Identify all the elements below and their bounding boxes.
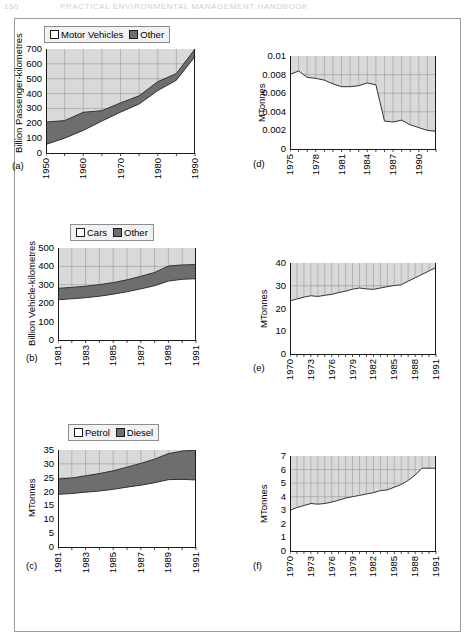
y-tick-label: 4 <box>258 492 286 502</box>
y-tick-label: 500 <box>14 74 42 84</box>
plot-area-panel-b <box>58 248 200 354</box>
y-tick-label: 300 <box>26 280 54 290</box>
chart-svg-panel-e <box>290 263 440 368</box>
y-tick-label: 6 <box>258 465 286 475</box>
running-title: PRACTICAL ENVIRONMENTAL MANAGEMENT HANDB… <box>60 2 308 11</box>
y-tick-label: 0 <box>26 335 54 345</box>
legend-panel-c: PetrolDiesel <box>68 424 159 441</box>
y-tick-label: 20 <box>26 487 54 497</box>
chart-svg-panel-a <box>46 49 199 167</box>
y-tick-label: 2 <box>258 519 286 529</box>
y-tick-label: 500 <box>26 243 54 253</box>
plot-area-panel-c <box>58 450 200 561</box>
y-tick-label: 10 <box>26 514 54 524</box>
panel-label-b: (b) <box>26 352 38 363</box>
y-tick-label: 200 <box>14 118 42 128</box>
y-tick-label: 0.008 <box>252 70 286 80</box>
panel-label-a: (a) <box>12 160 24 171</box>
chart-svg-panel-d <box>290 56 440 163</box>
legend-label: Motor Vehicles <box>61 29 123 40</box>
y-tick-label: 600 <box>14 59 42 69</box>
legend-swatch-icon <box>113 228 122 237</box>
page-number: 160 <box>4 2 19 11</box>
legend-label: Petrol <box>85 427 110 438</box>
y-tick-label: 5 <box>26 528 54 538</box>
page-running-header: 160 PRACTICAL ENVIRONMENTAL MANAGEMENT H… <box>0 2 476 14</box>
y-tick-label: 0.01 <box>252 51 286 61</box>
y-tick-label: 20 <box>258 304 286 314</box>
legend-label: Other <box>124 227 148 238</box>
y-tick-label: 0 <box>26 542 54 552</box>
panel-label-c: (c) <box>26 560 37 571</box>
y-axis-label-panel-b: Billion Vehicle-kilometres <box>26 242 37 346</box>
y-tick-label: 0 <box>252 144 286 154</box>
y-tick-label: 25 <box>26 473 54 483</box>
y-tick-label: 400 <box>14 89 42 99</box>
y-tick-label: 15 <box>26 500 54 510</box>
plot-area-panel-e <box>290 263 440 368</box>
legend-panel-b: CarsOther <box>70 224 154 241</box>
panel-label-f: (f) <box>253 560 262 571</box>
legend-swatch-icon <box>50 30 59 39</box>
legend-swatch-icon <box>116 428 125 437</box>
legend-label: Cars <box>87 227 107 238</box>
y-tick-label: 200 <box>26 298 54 308</box>
chart-svg-panel-b <box>58 248 200 354</box>
y-tick-label: 0 <box>258 546 286 556</box>
plot-area-panel-f <box>290 456 440 565</box>
y-tick-label: 40 <box>258 258 286 268</box>
legend-label: Other <box>140 29 164 40</box>
y-tick-label: 0.006 <box>252 88 286 98</box>
y-tick-label: 1 <box>258 532 286 542</box>
legend-swatch-icon <box>74 428 83 437</box>
y-tick-label: 100 <box>14 133 42 143</box>
y-tick-label: 5 <box>258 478 286 488</box>
y-tick-label: 100 <box>26 317 54 327</box>
y-tick-label: 0.004 <box>252 107 286 117</box>
y-tick-label: 7 <box>258 451 286 461</box>
y-tick-label: 700 <box>14 44 42 54</box>
legend-swatch-icon <box>76 228 85 237</box>
y-tick-label: 35 <box>26 445 54 455</box>
y-tick-label: 3 <box>258 505 286 515</box>
plot-area-panel-d <box>290 56 440 163</box>
y-tick-label: 0 <box>14 148 42 158</box>
y-tick-label: 300 <box>14 103 42 113</box>
chart-svg-panel-f <box>290 456 440 565</box>
y-tick-label: 10 <box>258 326 286 336</box>
y-tick-label: 0 <box>258 349 286 359</box>
panel-label-e: (e) <box>253 362 265 373</box>
y-tick-label: 0.002 <box>252 125 286 135</box>
y-tick-label: 30 <box>258 281 286 291</box>
legend-panel-a: Motor VehiclesOther <box>44 26 170 43</box>
legend-label: Diesel <box>127 427 153 438</box>
plot-area-panel-a <box>46 49 199 167</box>
legend-swatch-icon <box>129 30 138 39</box>
y-tick-label: 400 <box>26 261 54 271</box>
y-tick-label: 30 <box>26 459 54 469</box>
panel-label-d: (d) <box>253 158 265 169</box>
chart-svg-panel-c <box>58 450 200 561</box>
